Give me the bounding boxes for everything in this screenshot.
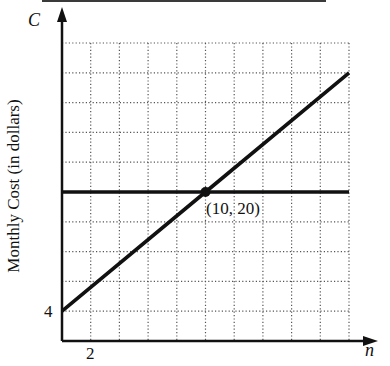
- x-tick-label: 2: [86, 344, 95, 364]
- y-axis-title: Monthly Cost (in dollars): [4, 99, 24, 272]
- intersection-label: (10, 20): [206, 199, 260, 219]
- chart-canvas: [0, 0, 390, 366]
- intersection-point-marker: [201, 187, 211, 197]
- y-axis-arrow-icon: [57, 7, 67, 22]
- x-axis-letter: n: [365, 340, 374, 361]
- y-axis-letter: C: [28, 10, 40, 31]
- axes: [57, 7, 378, 346]
- y-tick-label: 4: [44, 302, 53, 322]
